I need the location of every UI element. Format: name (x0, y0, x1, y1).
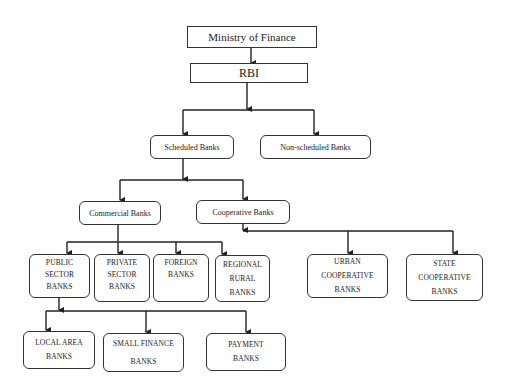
node-label: Cooperative Banks (212, 208, 273, 217)
node-small-finance-banks: SMALL FINANCE BANKS (103, 333, 184, 372)
node-state-cooperative-banks: STATE COOPERATIVE BANKS (406, 254, 483, 301)
node-label-line: LOCAL AREA (35, 336, 83, 350)
node-label: Ministry of Finance (208, 31, 295, 43)
node-label: Commercial Banks (89, 209, 151, 218)
node-private-sector-banks: PRIVATE SECTOR BANKS (94, 254, 150, 302)
node-label-line: FOREIGN (164, 257, 197, 269)
node-non-scheduled-banks: Non-scheduled Banks (260, 135, 371, 159)
node-label: RBI (239, 66, 259, 81)
node-label-line: SMALL FINANCE (113, 335, 174, 353)
node-label-line: BANKS (335, 283, 361, 297)
node-label: Non-scheduled Banks (280, 143, 350, 152)
node-public-sector-banks: PUBLIC SECTOR BANKS (29, 254, 90, 298)
node-label-line: BANKS (168, 269, 194, 281)
node-label-line: SECTOR (45, 269, 74, 281)
node-label-line: BANKS (432, 285, 458, 299)
node-payment-banks: PAYMENT BANKS (206, 333, 286, 371)
node-regional-rural-banks: REGIONAL RURAL BANKS (215, 255, 270, 302)
node-label-line: BANKS (131, 353, 157, 371)
node-local-area-banks: LOCAL AREA BANKS (23, 331, 95, 369)
node-cooperative-banks: Cooperative Banks (196, 200, 290, 224)
node-label-line: BANKS (47, 281, 73, 293)
node-label-line: RURAL (230, 272, 256, 286)
node-label-line: PAYMENT (228, 338, 264, 352)
node-label-line: PUBLIC (46, 257, 73, 269)
node-label-line: BANKS (109, 281, 135, 293)
node-label-line: BANKS (233, 352, 259, 366)
node-label-line: PRIVATE (107, 257, 138, 269)
node-label-line: COOPERATIVE (418, 271, 470, 285)
node-foreign-banks: FOREIGN BANKS (153, 254, 209, 302)
node-ministry-of-finance: Ministry of Finance (187, 26, 317, 48)
node-label-line: REGIONAL (223, 258, 262, 272)
node-label: Scheduled Banks (164, 143, 219, 152)
node-label-line: BANKS (230, 286, 256, 300)
node-commercial-banks: Commercial Banks (79, 201, 161, 225)
node-urban-cooperative-banks: URBAN COOPERATIVE BANKS (307, 254, 388, 298)
node-label-line: COOPERATIVE (321, 269, 373, 283)
node-label-line: BANKS (46, 350, 72, 364)
node-label-line: SECTOR (107, 269, 136, 281)
node-label-line: URBAN (334, 255, 361, 269)
node-rbi: RBI (190, 63, 308, 83)
node-scheduled-banks: Scheduled Banks (150, 135, 234, 159)
node-label-line: STATE (433, 257, 455, 271)
